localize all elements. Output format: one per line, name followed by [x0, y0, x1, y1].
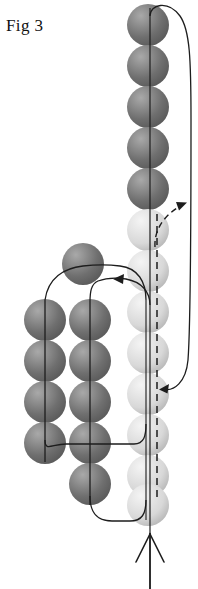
sphere-left-dark-column-1	[24, 299, 66, 341]
sphere-middle-dark-column-3	[69, 381, 111, 423]
sphere-middle-dark-column-5	[69, 463, 111, 505]
sphere-right-light-column-6	[127, 414, 169, 456]
sphere-left-dark-column-3	[24, 381, 66, 423]
figure-container: Fig 3	[0, 0, 198, 589]
sphere-middle-dark-column-2	[69, 340, 111, 382]
sphere-top-dark-column-4	[127, 127, 169, 169]
sphere-right-light-column-1	[127, 209, 169, 251]
sphere-right-light-column-4	[127, 332, 169, 374]
sphere-layer	[0, 0, 198, 589]
sphere-top-dark-column-2	[127, 45, 169, 87]
sphere-right-light-column-3	[127, 291, 169, 333]
sphere-middle-dark-column-1	[69, 299, 111, 341]
sphere-upper-left-dark-single-1	[62, 243, 104, 285]
sphere-top-dark-column-3	[127, 86, 169, 128]
sphere-left-dark-column-2	[24, 340, 66, 382]
sphere-right-light-column-8	[127, 484, 169, 526]
sphere-middle-dark-column-4	[69, 422, 111, 464]
sphere-right-light-column-2	[127, 250, 169, 292]
sphere-right-light-column-5	[127, 373, 169, 415]
sphere-top-dark-column-5	[127, 168, 169, 210]
sphere-left-dark-column-4	[24, 422, 66, 464]
sphere-top-dark-column-1	[127, 4, 169, 46]
